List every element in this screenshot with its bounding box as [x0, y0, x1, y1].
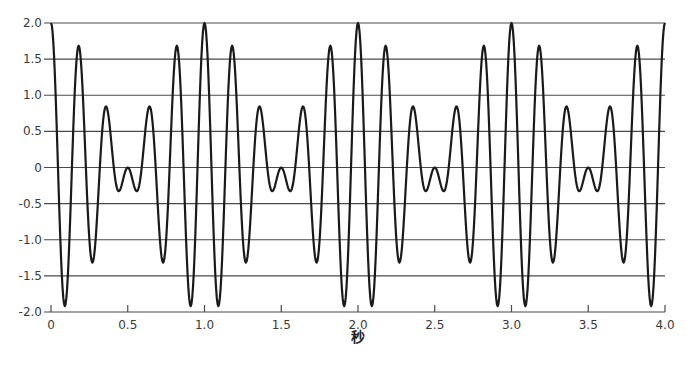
x-axis-title: 秒	[351, 329, 365, 345]
signal-curve	[51, 23, 665, 306]
y-tick-label: -0.5	[19, 197, 42, 211]
x-tick-label: 1.0	[195, 318, 214, 332]
y-tick-label: 0	[34, 161, 42, 175]
line-chart: 2.01.51.00.50-0.5-1.0-1.5-2.0 00.51.01.5…	[0, 0, 686, 366]
x-tick-label: 3.5	[579, 318, 598, 332]
y-tick-label: 1.5	[23, 52, 42, 66]
y-tick-label: 1.0	[23, 88, 42, 102]
x-axis-ticks: 00.51.01.52.02.53.03.54.0	[47, 305, 674, 332]
y-tick-label: 0.5	[23, 124, 42, 138]
x-tick-label: 0.5	[118, 318, 137, 332]
y-tick-label: -1.0	[19, 233, 42, 247]
y-tick-label: -2.0	[19, 305, 42, 319]
x-tick-label: 3.0	[502, 318, 521, 332]
y-tick-label: 2.0	[23, 16, 42, 30]
x-tick-label: 4.0	[655, 318, 674, 332]
x-tick-label: 1.5	[272, 318, 291, 332]
y-tick-label: -1.5	[19, 269, 42, 283]
x-tick-label: 2.5	[425, 318, 444, 332]
y-axis-ticks: 2.01.51.00.50-0.5-1.0-1.5-2.0	[19, 16, 42, 319]
x-tick-label: 0	[47, 318, 55, 332]
